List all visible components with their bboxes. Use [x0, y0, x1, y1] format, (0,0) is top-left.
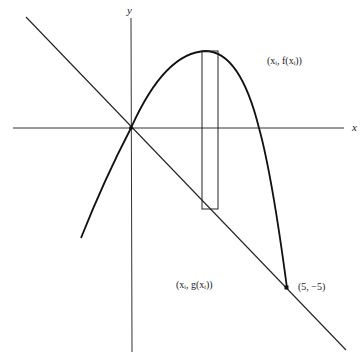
intersection-label: (5, −5) [298, 281, 325, 292]
upper-point-label: (xᵢ, f(xᵢ)) [267, 55, 302, 66]
intersection-point [285, 286, 289, 290]
y-axis [131, 18, 132, 352]
y-axis-label: y [127, 4, 132, 16]
strip-rectangle [202, 51, 218, 209]
line-g [26, 17, 346, 350]
diagram-canvas [0, 0, 364, 363]
lower-point-label: (xᵢ, g(xᵢ)) [176, 279, 213, 290]
x-axis-label: x [352, 121, 357, 133]
origin-point [129, 126, 133, 130]
curve-f [81, 51, 287, 288]
